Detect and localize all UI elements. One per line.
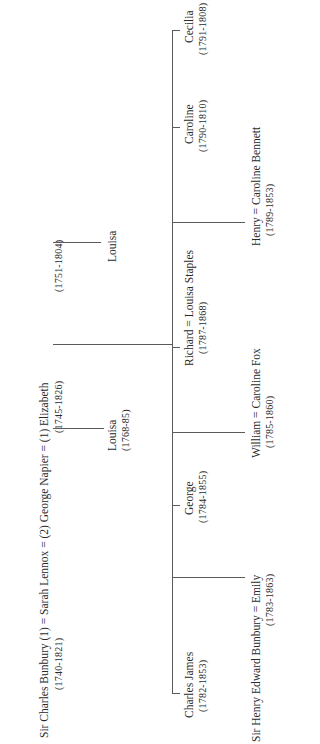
person-charles-james: Charles James (1782-1853) [183, 652, 209, 718]
person-louisa-napier: Louisa [106, 231, 119, 262]
person-louisa-bunbury: Louisa (1768-85) [106, 409, 132, 451]
person-william: William = Caroline Fox (1785-1860) [250, 348, 276, 458]
person-richard: Richard = Louisa Staples (1787-1868) [183, 250, 209, 366]
children-trunk [172, 30, 173, 694]
connector-napier-louisa [53, 242, 101, 243]
person-george: George (1784-1855) [183, 471, 209, 523]
branch-henry [172, 222, 245, 223]
branch-william [172, 432, 245, 433]
person-cecilia: Cecilia (1791-1808) [183, 3, 209, 55]
branch-george [172, 505, 180, 506]
charles-bunbury-dates: (1740-1821) [52, 638, 65, 690]
person-henry-edward-bunbury: Sir Henry Edward Bunbury = Emily (1783-1… [250, 574, 276, 742]
branch-charles-james [172, 693, 180, 694]
connector-sarah-children [53, 344, 172, 345]
sarah-lennox-dates: (1745-1826) [52, 381, 65, 433]
branch-caroline [172, 127, 180, 128]
george-napier-dates: (1751-1804) [52, 240, 65, 292]
person-henry: Henry = Caroline Bennett (1789-1853) [250, 127, 276, 246]
parents-names: Sir Charles Bunbury (1) = Sarah Lennox =… [38, 382, 51, 738]
branch-henry-edward [172, 577, 245, 578]
person-caroline: Caroline (1790-1810) [183, 100, 209, 152]
branch-cecilia [172, 30, 180, 31]
connector-bunbury-louisa [53, 428, 104, 429]
parents-line: Sir Charles Bunbury (1) = Sarah Lennox =… [38, 382, 51, 738]
branch-richard [172, 347, 180, 348]
